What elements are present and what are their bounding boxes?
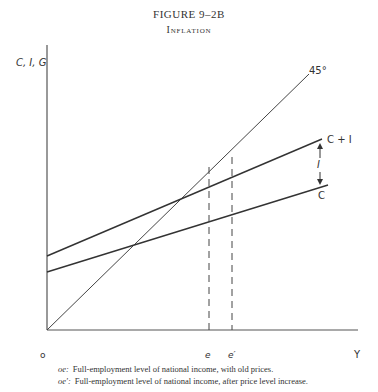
caption-oe-text: Full-employment level of national income… bbox=[73, 364, 273, 374]
45-degree-line bbox=[47, 74, 309, 330]
origin-label: o bbox=[40, 350, 46, 360]
caption-oe: oe:Full-employment level of national inc… bbox=[58, 364, 273, 374]
c-line bbox=[47, 185, 328, 272]
x-axis-label: Y bbox=[353, 349, 361, 360]
y-axis-label: C, I, G bbox=[16, 57, 47, 68]
e-label: e bbox=[205, 350, 211, 360]
caption-oe-prime-key: oe′: bbox=[58, 376, 71, 386]
inflation-diagram: C, I, G Y o 45° C + I C I e e′ bbox=[0, 0, 378, 392]
c-label: C bbox=[318, 190, 325, 201]
45-degree-label: 45° bbox=[309, 65, 327, 76]
c-plus-i-label: C + I bbox=[327, 134, 352, 145]
caption-oe-prime-text: Full-employment level of national income… bbox=[75, 376, 308, 386]
caption-oe-prime: oe′:Full-employment level of national in… bbox=[58, 376, 308, 386]
e-prime-label: e′ bbox=[228, 350, 236, 360]
c-plus-i-line bbox=[47, 139, 322, 256]
i-gap-label: I bbox=[317, 159, 320, 170]
caption-oe-key: oe: bbox=[58, 364, 69, 374]
